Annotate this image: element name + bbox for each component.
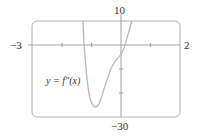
chart-canvas [0,0,197,136]
y-min-label: −30 [111,121,128,132]
curve-label: y = f″(x) [46,76,80,86]
y-max-label: 10 [114,5,125,16]
x-max-label: 2 [184,40,190,51]
x-min-label: −3 [10,40,22,51]
curve-f-double-prime [83,21,132,107]
plot-frame [32,21,180,117]
